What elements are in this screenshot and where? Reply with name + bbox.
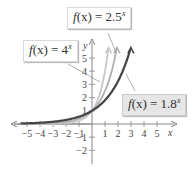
svg-text:3: 3	[129, 128, 134, 139]
x-axis-label: x	[167, 127, 173, 138]
svg-text:−3: −3	[48, 128, 59, 139]
label-f25: f(x) = 2.5x	[67, 7, 131, 29]
svg-text:4: 4	[142, 128, 147, 139]
label-f18: f(x) = 1.8x	[122, 94, 186, 116]
svg-text:5: 5	[155, 128, 160, 139]
svg-text:−4: −4	[35, 128, 46, 139]
svg-text:−5: −5	[22, 128, 33, 139]
svg-text:3: 3	[82, 79, 87, 90]
svg-text:4: 4	[82, 66, 87, 77]
svg-text:2: 2	[116, 128, 121, 139]
svg-text:−1: −1	[76, 132, 87, 143]
svg-text:−2: −2	[76, 145, 87, 156]
svg-text:2: 2	[82, 92, 87, 103]
label-f4: f(x) = 4x	[23, 40, 78, 62]
leader-f18	[126, 74, 135, 91]
svg-text:−2: −2	[61, 128, 72, 139]
y-axis-label: y	[82, 40, 88, 51]
svg-text:5: 5	[82, 53, 87, 64]
svg-text:1: 1	[103, 128, 108, 139]
